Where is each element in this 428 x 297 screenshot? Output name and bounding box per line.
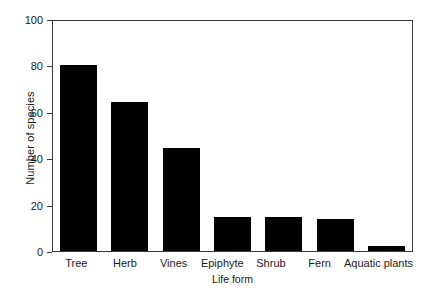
bar [163, 148, 200, 252]
bar-slot [156, 21, 207, 251]
x-axis-tick-label: Vines [149, 254, 198, 272]
bar-slot [53, 21, 104, 251]
bar-chart-figure: Number of species 020406080100 TreeHerbV… [0, 0, 428, 297]
x-axis-tick-label: Tree [52, 254, 101, 272]
bar [368, 246, 405, 251]
bar [265, 217, 302, 252]
y-axis-tick-labels: 020406080100 [0, 0, 52, 297]
bar [60, 65, 97, 251]
x-axis-tick-label: Shrub [247, 254, 296, 272]
x-axis-tick-label: Fern [295, 254, 344, 272]
plot-area [52, 20, 413, 252]
y-axis-tick-mark [47, 252, 52, 253]
bar-slot [207, 21, 258, 251]
bar [214, 217, 251, 252]
x-axis-title: Life form [52, 272, 413, 286]
x-axis-tick-labels: TreeHerbVinesEpiphyteShrubFernAquatic pl… [52, 254, 413, 272]
bar-slot [309, 21, 360, 251]
bar [317, 219, 354, 251]
y-axis-tick-label: 60 [31, 106, 43, 120]
bar-slot [104, 21, 155, 251]
y-axis-tick-label: 40 [31, 152, 43, 166]
bar-series [53, 21, 412, 251]
y-axis-tick-label: 80 [31, 59, 43, 73]
y-axis-tick-label: 20 [31, 199, 43, 213]
y-axis-tick-label: 100 [25, 13, 43, 27]
x-axis-tick-label: Aquatic plants [344, 254, 413, 272]
bar [111, 102, 148, 252]
bar-slot [258, 21, 309, 251]
x-axis-tick-label: Herb [101, 254, 150, 272]
y-axis-tick-label: 0 [37, 245, 43, 259]
x-axis-tick-label: Epiphyte [198, 254, 247, 272]
bar-slot [361, 21, 412, 251]
